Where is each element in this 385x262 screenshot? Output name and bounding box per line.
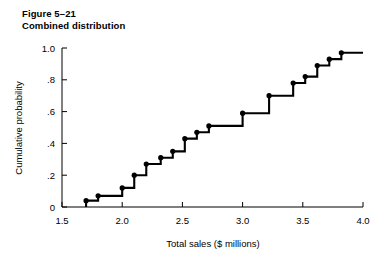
step-chart-plot: 0.2.4.6.81.0 1.52.02.53.03.54.0 Total sa…	[0, 0, 385, 262]
data-point-marker	[96, 193, 101, 198]
data-point-marker	[83, 198, 88, 203]
x-tick-label: 3.5	[296, 215, 309, 226]
y-tick-label: .4	[47, 138, 55, 149]
y-tick-label: .8	[47, 74, 55, 85]
data-point-marker	[120, 185, 125, 190]
y-axis-ticks	[62, 48, 67, 207]
y-tick-label: .6	[47, 106, 55, 117]
data-point-marker	[132, 173, 137, 178]
x-axis-title: Total sales ($ millions)	[166, 238, 259, 249]
x-tick-label: 4.0	[356, 215, 369, 226]
x-tick-label: 3.0	[236, 215, 249, 226]
y-axis-tick-labels: 0.2.4.6.81.0	[42, 43, 55, 213]
data-point-marker	[303, 74, 308, 79]
x-axis-ticks	[62, 202, 363, 207]
step-curve	[86, 53, 363, 207]
y-tick-label: 0	[50, 202, 55, 213]
y-axis-title: Cumulative probability	[13, 81, 24, 175]
x-tick-label: 1.5	[55, 215, 68, 226]
y-tick-label: 1.0	[42, 43, 55, 54]
figure-page: Figure 5–21 Combined distribution 0.2.4.…	[0, 0, 385, 262]
x-tick-label: 2.0	[116, 215, 129, 226]
data-point-marker	[240, 111, 245, 116]
x-axis-tick-labels: 1.52.02.53.03.54.0	[55, 215, 369, 226]
data-point-marker	[315, 63, 320, 68]
data-point-marker	[206, 123, 211, 128]
data-point-marker	[327, 57, 332, 62]
data-point-marker	[266, 93, 271, 98]
x-tick-label: 2.5	[176, 215, 189, 226]
data-point-marker	[144, 161, 149, 166]
data-point-marker	[339, 50, 344, 55]
data-point-marker	[291, 80, 296, 85]
data-point-marker	[158, 155, 163, 160]
y-tick-label: .2	[47, 170, 55, 181]
data-point-marker	[194, 130, 199, 135]
data-point-marker	[170, 149, 175, 154]
data-point-marker	[182, 136, 187, 141]
